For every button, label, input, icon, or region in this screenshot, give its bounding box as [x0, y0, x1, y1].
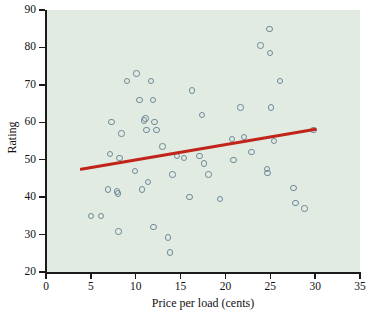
data-point: [201, 160, 207, 166]
x-tick-label: 5: [79, 281, 103, 293]
data-point: [115, 190, 121, 196]
data-point: [266, 26, 272, 32]
x-tick-mark: [225, 273, 226, 279]
x-tick-mark: [90, 273, 91, 279]
data-point: [257, 42, 263, 48]
data-point: [142, 115, 148, 121]
data-point: [196, 153, 202, 159]
y-tick-label: 70: [10, 79, 36, 91]
x-tick-label: 35: [348, 281, 370, 293]
plot-panel: [46, 10, 360, 272]
x-axis-label: Price per load (cents): [46, 296, 360, 311]
data-point: [139, 186, 145, 192]
x-tick-mark: [359, 273, 360, 279]
data-point: [88, 213, 94, 219]
data-point: [186, 194, 192, 200]
data-point: [248, 149, 254, 155]
data-point: [237, 104, 243, 110]
scatter-plot-figure: 203040506070809005101520253035 Price per…: [0, 0, 370, 322]
x-tick-label: 0: [34, 281, 58, 293]
x-tick-label: 15: [169, 281, 193, 293]
data-point: [165, 234, 171, 240]
y-tick-mark: [39, 122, 45, 123]
data-point: [133, 70, 139, 76]
x-tick-label: 30: [303, 281, 327, 293]
y-tick-mark: [39, 159, 45, 160]
data-point: [230, 157, 236, 163]
data-point: [301, 205, 307, 211]
data-point: [153, 127, 159, 133]
data-point: [292, 200, 298, 206]
y-axis-line: [45, 10, 47, 273]
data-point: [189, 87, 195, 93]
data-point: [118, 130, 124, 136]
data-point: [105, 186, 111, 192]
x-tick-mark: [180, 273, 181, 279]
y-tick-mark: [39, 234, 45, 235]
data-point: [290, 185, 296, 191]
x-tick-label: 10: [124, 281, 148, 293]
data-point: [205, 171, 211, 177]
x-tick-mark: [270, 273, 271, 279]
data-point: [169, 171, 175, 177]
data-point: [167, 249, 173, 255]
data-point: [132, 168, 138, 174]
data-point: [143, 127, 149, 133]
data-point: [268, 104, 274, 110]
data-point: [264, 170, 270, 176]
x-tick-label: 20: [213, 281, 237, 293]
x-tick-mark: [135, 273, 136, 279]
data-point: [150, 97, 156, 103]
y-tick-mark: [39, 47, 45, 48]
y-tick-mark: [39, 9, 45, 10]
y-axis-label: Rating: [5, 103, 20, 173]
x-tick-label: 25: [258, 281, 282, 293]
y-tick-mark: [39, 196, 45, 197]
data-point: [98, 213, 104, 219]
y-tick-label: 90: [10, 4, 36, 16]
data-point: [115, 228, 121, 234]
y-tick-label: 80: [10, 41, 36, 53]
y-tick-mark: [39, 84, 45, 85]
x-tick-mark: [45, 273, 46, 279]
data-point: [159, 143, 165, 149]
data-point: [136, 97, 142, 103]
y-tick-label: 20: [10, 266, 36, 278]
x-tick-mark: [314, 273, 315, 279]
data-point: [150, 224, 156, 230]
y-tick-label: 40: [10, 191, 36, 203]
y-tick-mark: [39, 271, 45, 272]
y-tick-label: 30: [10, 229, 36, 241]
